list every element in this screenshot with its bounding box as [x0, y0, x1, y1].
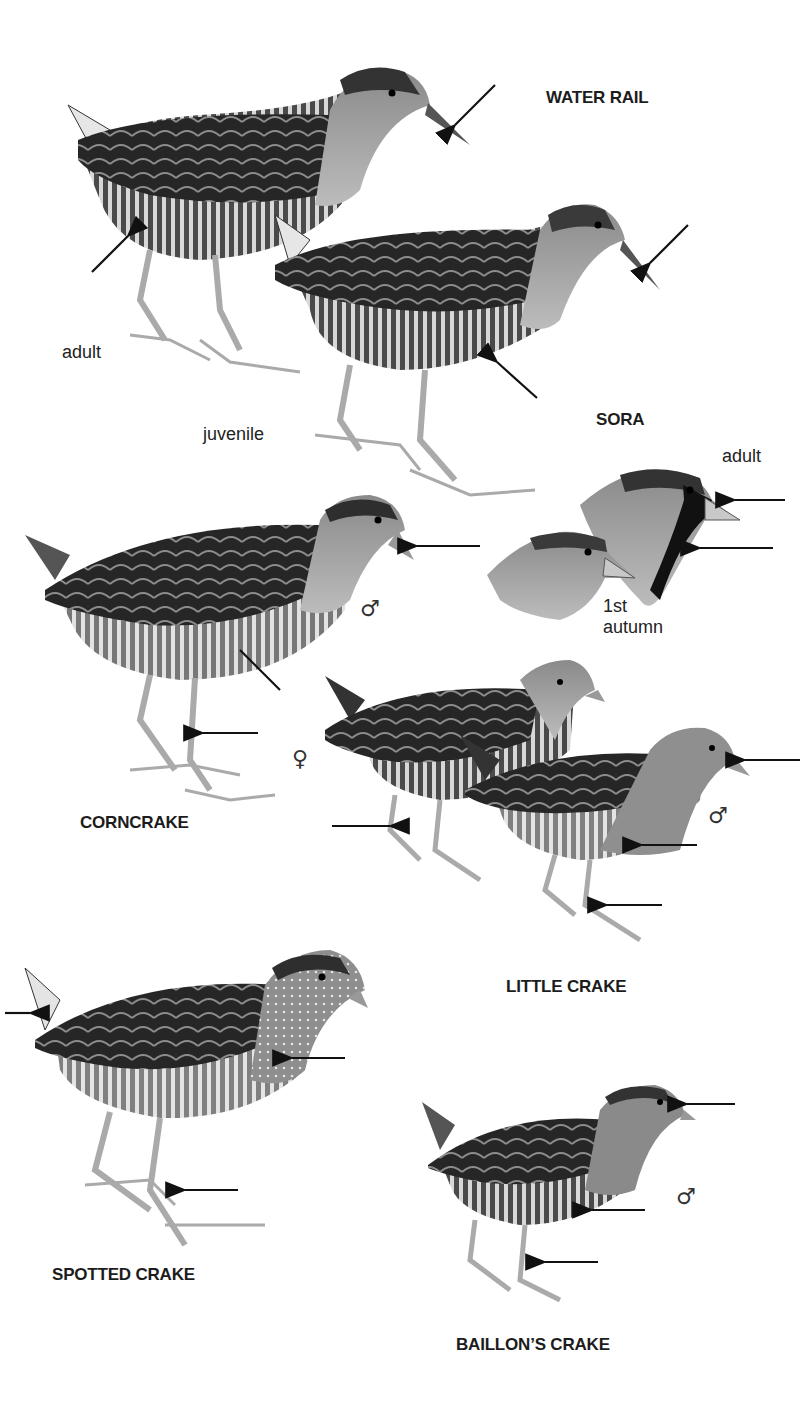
- species-title-corncrake: CORNCRAKE: [80, 813, 189, 833]
- corncrake-figure: [25, 495, 414, 800]
- male-symbol-corncrake: ♂: [360, 596, 380, 621]
- baillons-crake-figure: [422, 1085, 696, 1300]
- male-symbol-little-crake: ♂: [708, 803, 728, 828]
- sora-adult-figure: [580, 469, 740, 605]
- label-sora-1st: 1st: [603, 597, 627, 617]
- spotted-crake-figure: [25, 950, 368, 1245]
- female-symbol-little-crake: ♀: [292, 746, 308, 771]
- species-title-water-rail: WATER RAIL: [546, 88, 649, 108]
- species-title-sora: SORA: [596, 410, 644, 430]
- species-title-spotted-crake: SPOTTED CRAKE: [52, 1265, 195, 1285]
- label-water-rail-juvenile: juvenile: [203, 425, 264, 445]
- label-sora-adult: adult: [722, 447, 761, 467]
- field-guide-plate: WATER RAIL SORA CORNCRAKE LITTLE CRAKE S…: [0, 0, 802, 1401]
- species-title-baillons-crake: BAILLON’S CRAKE: [456, 1335, 610, 1355]
- label-water-rail-adult: adult: [62, 343, 101, 363]
- species-title-little-crake: LITTLE CRAKE: [506, 977, 626, 997]
- water-rail-juvenile-figure: [275, 204, 660, 495]
- label-sora-autumn: autumn: [603, 618, 663, 638]
- male-symbol-baillons-crake: ♂: [676, 1184, 696, 1209]
